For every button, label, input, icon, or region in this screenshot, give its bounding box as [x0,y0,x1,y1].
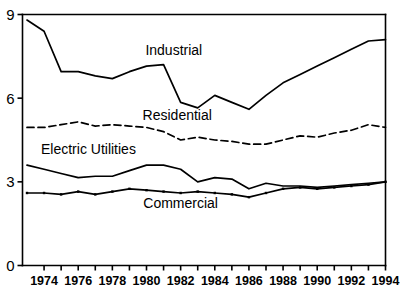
chart-canvas: 0369 19741976197819801982198419861988199… [0,0,400,300]
y-tick-label: 3 [6,173,14,190]
data-point-marker [299,186,301,188]
data-point-marker [162,190,164,192]
x-tick-label: 1986 [235,274,263,288]
x-tick-label: 1974 [30,274,58,288]
data-point-marker [77,190,79,192]
series-label-industrial: Industrial [145,42,202,58]
y-tick-label: 9 [6,6,14,23]
data-point-marker [145,189,147,191]
x-tick-label: 1988 [269,274,297,288]
x-tick-label: 1982 [167,274,195,288]
data-point-marker [60,193,62,195]
x-tick-label: 1984 [201,274,229,288]
data-point-marker [316,188,318,190]
data-point-marker [265,192,267,194]
series-label-electric-utilities: Electric Utilities [41,141,136,157]
data-point-marker [350,185,352,187]
data-point-marker [111,190,113,192]
series-line-industrial [27,20,386,109]
series-line-electric-utilities [27,165,386,189]
y-axis-tick-labels: 0369 [6,6,14,274]
y-tick-label: 6 [6,90,14,107]
data-point-marker [26,192,28,194]
data-point-marker [94,193,96,195]
x-tick-label: 1980 [133,274,161,288]
x-tick-label: 1994 [372,274,400,288]
data-point-marker [282,188,284,190]
data-point-marker [197,190,199,192]
y-tick-label: 0 [6,257,14,274]
line-chart: 0369 19741976197819801982198419861988199… [0,0,400,300]
data-point-marker [384,181,386,183]
data-point-marker [214,192,216,194]
series-label-commercial: Commercial [143,195,218,211]
data-point-marker [367,183,369,185]
x-tick-label: 1992 [337,274,365,288]
x-axis-tick-labels: 1974197619781980198219841986198819901992… [30,274,399,288]
data-point-marker [128,188,130,190]
data-point-marker [43,192,45,194]
x-tick-label: 1978 [98,274,126,288]
x-tick-label: 1990 [303,274,331,288]
x-tick-label: 1976 [64,274,92,288]
data-point-marker [333,186,335,188]
series-label-residential: Residential [143,107,212,123]
data-point-marker [248,196,250,198]
data-point-marker [231,193,233,195]
data-point-marker [179,192,181,194]
